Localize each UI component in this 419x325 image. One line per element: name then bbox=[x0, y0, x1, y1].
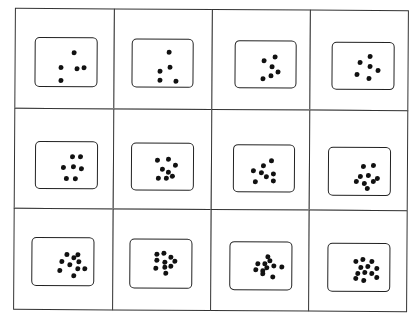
dot-card bbox=[34, 37, 97, 87]
dot bbox=[268, 73, 273, 78]
dot-card bbox=[131, 39, 193, 88]
dot bbox=[368, 64, 373, 69]
dot bbox=[361, 278, 366, 283]
dot bbox=[173, 162, 178, 167]
dot bbox=[72, 274, 77, 279]
dot bbox=[371, 179, 376, 184]
dot bbox=[70, 154, 75, 159]
dot bbox=[259, 170, 264, 175]
dot bbox=[375, 266, 380, 271]
dot bbox=[158, 69, 163, 74]
grid-cell bbox=[309, 110, 409, 212]
grid-cell bbox=[211, 109, 311, 211]
dot bbox=[72, 50, 77, 55]
dot bbox=[74, 67, 79, 72]
dot bbox=[375, 68, 380, 73]
dot bbox=[70, 164, 75, 169]
dot-card-grid bbox=[13, 8, 408, 311]
dot bbox=[75, 252, 80, 257]
dot-card bbox=[328, 147, 391, 196]
dot bbox=[157, 77, 162, 82]
dot bbox=[59, 78, 64, 83]
dot bbox=[73, 176, 78, 181]
dot bbox=[367, 54, 372, 59]
grid-cell bbox=[210, 209, 310, 312]
dot bbox=[271, 263, 276, 268]
dot-card bbox=[331, 42, 394, 90]
dot bbox=[253, 267, 258, 272]
dot bbox=[365, 264, 370, 269]
grid-cell bbox=[113, 108, 213, 210]
dot bbox=[154, 257, 159, 262]
dot bbox=[276, 69, 281, 74]
dot bbox=[261, 58, 266, 63]
dot bbox=[79, 166, 84, 171]
dot bbox=[280, 265, 285, 270]
dot bbox=[253, 179, 258, 184]
dot bbox=[57, 268, 62, 273]
grid-cell bbox=[309, 10, 409, 112]
dot bbox=[366, 76, 371, 81]
dot bbox=[251, 168, 256, 173]
dot bbox=[365, 186, 370, 191]
dot bbox=[261, 272, 266, 277]
dot bbox=[369, 271, 374, 276]
dot bbox=[354, 259, 359, 264]
dot bbox=[166, 157, 171, 162]
dot bbox=[161, 250, 166, 255]
dot-card bbox=[234, 40, 296, 88]
dot bbox=[167, 50, 172, 55]
dot bbox=[375, 275, 380, 280]
dot bbox=[78, 154, 83, 159]
dot bbox=[271, 178, 276, 183]
dot bbox=[59, 65, 64, 70]
dot bbox=[64, 176, 69, 181]
dot-card bbox=[129, 239, 192, 289]
dot bbox=[256, 261, 261, 266]
dot bbox=[173, 259, 178, 264]
dot bbox=[168, 264, 173, 269]
grid-cell bbox=[14, 8, 115, 110]
dot bbox=[65, 252, 70, 257]
dot-card bbox=[31, 237, 94, 286]
grid-cell bbox=[308, 210, 408, 313]
dot bbox=[366, 172, 371, 177]
dot bbox=[261, 163, 266, 168]
dot bbox=[358, 174, 363, 179]
dot bbox=[164, 175, 169, 180]
dot-card bbox=[35, 141, 98, 189]
dot-card bbox=[229, 241, 292, 290]
dot bbox=[354, 276, 359, 281]
dot bbox=[260, 77, 265, 82]
dot bbox=[162, 264, 167, 269]
dot bbox=[361, 256, 366, 261]
dot bbox=[358, 265, 363, 270]
dot bbox=[170, 174, 175, 179]
dot bbox=[369, 259, 374, 264]
dot bbox=[81, 65, 86, 70]
grid-cell bbox=[112, 208, 212, 311]
grid-cell bbox=[211, 9, 311, 111]
dot bbox=[173, 78, 178, 83]
dot bbox=[155, 158, 160, 163]
grid-cell bbox=[14, 108, 115, 210]
dot-card bbox=[233, 144, 295, 192]
dot bbox=[361, 164, 366, 169]
dot bbox=[159, 167, 164, 172]
dot bbox=[272, 55, 277, 60]
dot bbox=[154, 252, 159, 257]
dot bbox=[59, 259, 64, 264]
dot bbox=[75, 267, 80, 272]
dot bbox=[61, 165, 66, 170]
dot bbox=[163, 270, 168, 275]
dot-card bbox=[327, 243, 390, 292]
dot bbox=[76, 259, 81, 264]
dot bbox=[269, 159, 274, 164]
grid-cell bbox=[13, 208, 114, 311]
dot-card bbox=[131, 143, 194, 191]
dot bbox=[362, 270, 367, 275]
dot bbox=[371, 163, 376, 168]
dot bbox=[269, 64, 274, 69]
dot bbox=[271, 172, 276, 177]
dot bbox=[167, 65, 172, 70]
